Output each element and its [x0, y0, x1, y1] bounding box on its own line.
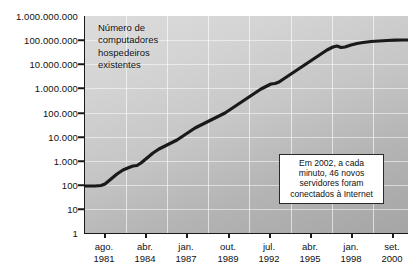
- x-tick-month: out.: [217, 241, 238, 253]
- x-tick-month: abr.: [134, 241, 155, 253]
- y-tick-label: 1.000.000.000: [16, 11, 78, 22]
- y-tick-label: 1: [73, 228, 78, 239]
- x-tick-mark: [186, 233, 188, 238]
- x-tick-mark: [145, 233, 147, 238]
- x-tick-year: 2000: [381, 253, 402, 265]
- x-tick-mark: [104, 233, 106, 238]
- x-tick-year: 1984: [134, 253, 155, 265]
- y-tick-label: 100: [62, 180, 78, 191]
- x-tick-label: jan. 1987: [175, 241, 196, 264]
- x-tick-month: ago.: [93, 241, 114, 253]
- annotation-line-1: Em 2002, a cada: [284, 158, 379, 168]
- series-title: Número de computadores hospedeiros exist…: [98, 22, 158, 72]
- x-tick-mark: [310, 233, 312, 238]
- x-tick-month: abr.: [299, 241, 320, 253]
- annotation-line-3: servidores foram: [284, 178, 379, 188]
- x-tick-month: jul.: [258, 241, 279, 253]
- x-tick-year: 1998: [340, 253, 361, 265]
- y-tick-label: 10.000: [48, 132, 78, 143]
- annotation-line-4: conectados à Internet: [284, 189, 379, 199]
- y-tick-label: 100.000.000: [24, 35, 78, 46]
- x-tick-year: 1981: [93, 253, 114, 265]
- x-tick-month: jan.: [340, 241, 361, 253]
- plot-area: Número de computadores hospedeiros exist…: [84, 16, 408, 234]
- y-tick-label: 1.000: [54, 156, 78, 167]
- x-tick-year: 1992: [258, 253, 279, 265]
- x-tick-year: 1995: [299, 253, 320, 265]
- x-tick-label: abr. 1984: [134, 241, 155, 264]
- x-tick-label: jul. 1992: [258, 241, 279, 264]
- x-tick-mark: [351, 233, 353, 238]
- x-tick-label: ago. 1981: [93, 241, 114, 264]
- y-tick-label: 10: [67, 204, 78, 215]
- annotation-line-2: minuto, 46 novos: [284, 168, 379, 178]
- x-tick-label: out. 1989: [217, 241, 238, 264]
- x-tick-mark: [392, 233, 394, 238]
- y-tick-label: 1.000.000: [35, 83, 78, 94]
- y-tick-label: 10.000.000: [29, 59, 78, 70]
- y-tick-label: 100.000: [43, 108, 78, 119]
- x-tick-label: jan. 1998: [340, 241, 361, 264]
- x-tick-month: set.: [381, 241, 402, 253]
- x-tick-label: abr. 1995: [299, 241, 320, 264]
- x-tick-year: 1987: [175, 253, 196, 265]
- x-tick-label: set. 2000: [381, 241, 402, 264]
- annotation-callout: Em 2002, a cada minuto, 46 novos servido…: [279, 154, 384, 204]
- x-tick-mark: [228, 233, 230, 238]
- chart-figure: 1.000.000.000 100.000.000 10.000.000 1.0…: [0, 0, 417, 278]
- x-tick-month: jan.: [175, 241, 196, 253]
- x-tick-mark: [269, 233, 271, 238]
- x-tick-year: 1989: [217, 253, 238, 265]
